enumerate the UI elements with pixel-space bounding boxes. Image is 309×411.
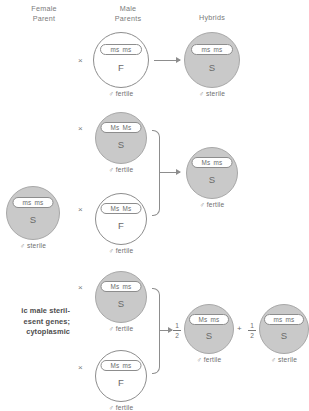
nucleus-oval: Ms ms (192, 157, 233, 168)
circle-body: ms ms S ♂ sterile (6, 186, 60, 240)
fraction-one-half-left: 1 2 (173, 322, 181, 339)
nucleus-oval: ms ms (13, 197, 54, 208)
circle-body: Ms Ms S ♂ fertile (95, 112, 147, 164)
cytoplasm-label: S (118, 298, 125, 309)
nucleus-oval: Ms Ms (101, 122, 142, 133)
allele-right: ms (35, 199, 44, 206)
allele-left: Ms (111, 205, 120, 212)
figure-caption: ic male steril- esent genes; cytoplasmic (0, 306, 70, 338)
circle-r3-male-bottom: Ms ms F ♂ fertile (95, 350, 147, 402)
nucleus-oval: Ms Ms (101, 203, 142, 214)
cytoplasm-label: S (206, 330, 213, 341)
merge-bracket-row2 (152, 130, 160, 216)
fertility-label: ♂ fertile (197, 356, 222, 363)
allele-left: ms (274, 316, 283, 323)
circle-r2-male-top: Ms Ms S ♂ fertile (95, 112, 147, 164)
fertility-label: ♂ fertile (109, 325, 134, 332)
fertility-label: ♂ fertile (109, 404, 134, 411)
merge-bracket-row3 (152, 288, 160, 374)
allele-right: ms (123, 283, 132, 290)
cytoplasm-label: S (30, 214, 37, 225)
nucleus-oval: Ms ms (101, 281, 142, 292)
nucleus-oval: Ms ms (189, 314, 229, 325)
allele-right: ms (214, 159, 223, 166)
allele-right: ms (214, 46, 223, 53)
fraction-numerator: 1 (248, 322, 256, 329)
cytoplasm-label: S (118, 139, 125, 150)
circle-r2-male-bottom: Ms Ms F ♂ fertile (95, 193, 147, 245)
circle-body: Ms ms F ♂ fertile (95, 350, 147, 402)
cross-symbol-row3-bottom: × (78, 363, 83, 372)
circle-r2-hybrid: Ms ms S ♂ fertile (186, 147, 238, 199)
allele-right: ms (211, 316, 220, 323)
circle-r3-hybrid-right: ms ms S ♂ sterile (259, 304, 309, 354)
fraction-denominator: 2 (248, 332, 256, 339)
cross-symbol-row2-top: × (78, 124, 83, 133)
allele-right: ms (123, 46, 132, 53)
fertility-label: ♂ sterile (271, 356, 297, 363)
fertility-label: ♂ fertile (200, 201, 225, 208)
cytoplasm-label: F (118, 62, 124, 73)
circle-r3-hybrid-left: Ms ms S ♂ fertile (184, 304, 234, 354)
allele-left: ms (202, 46, 211, 53)
allele-left: ms (23, 199, 32, 206)
allele-left: Ms (111, 124, 120, 131)
circle-female-parent: ms ms S ♂ sterile (6, 186, 60, 240)
fertility-label: ♂ fertile (109, 166, 134, 173)
circle-body: Ms ms S ♂ fertile (95, 271, 147, 323)
allele-right: ms (123, 362, 132, 369)
fraction-numerator: 1 (173, 322, 181, 329)
circle-body: Ms Ms F ♂ fertile (95, 193, 147, 245)
circle-body: ms ms F ♂ fertile (93, 32, 149, 88)
allele-left: Ms (111, 283, 120, 290)
plus-symbol: + (237, 324, 242, 333)
cytoplasm-label: S (209, 62, 216, 73)
circle-body: Ms ms S ♂ fertile (186, 147, 238, 199)
cross-symbol-row3-top: × (78, 283, 83, 292)
cytoplasm-label: S (281, 330, 288, 341)
fraction-bar (173, 330, 181, 331)
nucleus-oval: ms ms (264, 314, 304, 325)
allele-right: Ms (123, 205, 132, 212)
header-female-parent: Female Parent (14, 4, 74, 23)
allele-left: Ms (111, 362, 120, 369)
bracket-arrow-row3 (160, 330, 172, 331)
circle-r1-hybrid: ms ms S ♂ sterile (184, 32, 240, 88)
circle-body: ms ms S ♂ sterile (184, 32, 240, 88)
nucleus-oval: ms ms (100, 44, 142, 55)
allele-left: Ms (199, 316, 208, 323)
circle-r3-male-top: Ms ms S ♂ fertile (95, 271, 147, 323)
nucleus-oval: ms ms (191, 44, 233, 55)
cytoplasm-label: S (209, 174, 216, 185)
cross-symbol-row2-bottom: × (78, 205, 83, 214)
fertility-label: ♂ sterile (20, 242, 46, 249)
cross-symbol-row1: × (78, 56, 83, 65)
header-male-parents: Male Parents (98, 4, 158, 23)
allele-left: Ms (202, 159, 211, 166)
allele-left: ms (111, 46, 120, 53)
fertility-label: ♂ fertile (109, 247, 134, 254)
circle-r1-male: ms ms F ♂ fertile (93, 32, 149, 88)
fraction-one-half-right: 1 2 (248, 322, 256, 339)
allele-right: ms (286, 316, 295, 323)
fraction-bar (248, 330, 256, 331)
circle-body: Ms ms S ♂ fertile (184, 304, 234, 354)
circle-body: ms ms S ♂ sterile (259, 304, 309, 354)
cytoplasm-label: F (118, 220, 124, 231)
fertility-label: ♂ sterile (199, 90, 225, 97)
nucleus-oval: Ms ms (101, 360, 142, 371)
fertility-label: ♂ fertile (109, 90, 134, 97)
allele-right: Ms (123, 124, 132, 131)
cytoplasm-label: F (118, 377, 124, 388)
header-hybrids: Hybrids (182, 13, 242, 23)
arrow-r1 (154, 60, 180, 61)
fraction-denominator: 2 (173, 332, 181, 339)
bracket-arrow-row2 (160, 172, 180, 173)
